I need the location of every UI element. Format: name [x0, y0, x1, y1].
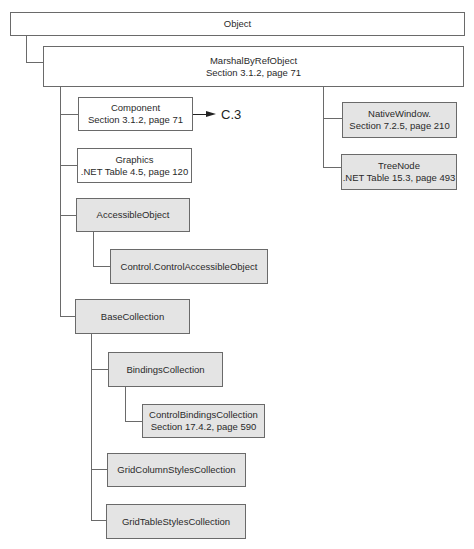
- node-component-ref: Section 3.1.2, page 71: [88, 114, 183, 126]
- connector-to-gridcolumn: [91, 469, 107, 470]
- connector-bindings-trunk: [125, 387, 126, 422]
- connector-to-graphics: [60, 165, 77, 166]
- node-gridtablestylescollection[interactable]: GridTableStylesCollection: [106, 504, 246, 539]
- node-controlaccessible-name: Control.ControlAccessibleObject: [121, 261, 258, 273]
- node-graphics[interactable]: Graphics .NET Table 4.5, page 120: [77, 148, 192, 183]
- connector-object-marshal-h: [26, 62, 43, 63]
- connector-to-bindings: [91, 369, 108, 370]
- node-graphics-ref: .NET Table 4.5, page 120: [81, 166, 188, 178]
- connector-to-basecollection: [60, 316, 75, 317]
- connector-basecollection-trunk: [91, 334, 92, 521]
- node-controlbindings-ref: Section 17.4.2, page 590: [151, 421, 257, 433]
- connector-accessible-trunk: [93, 232, 94, 267]
- node-bindings-name: BindingsCollection: [126, 364, 204, 376]
- arrow-right-icon: [206, 111, 216, 117]
- node-nativewindow-name: NativeWindow.: [368, 108, 431, 120]
- connector-to-component: [60, 114, 78, 115]
- node-controlbindings-name: ControlBindingsCollection: [149, 409, 258, 421]
- node-treenode-name: TreeNode: [378, 160, 420, 172]
- node-gridcolumnstylescollection[interactable]: GridColumnStylesCollection: [107, 453, 246, 487]
- node-marshal-name: MarshalByRefObject: [210, 55, 297, 67]
- node-graphics-name: Graphics: [115, 154, 153, 166]
- connector-marshal-trunk-left: [60, 87, 61, 317]
- class-hierarchy-diagram: C.3 Object MarshalByRefObject Section 3.…: [0, 0, 474, 549]
- node-object[interactable]: Object: [10, 12, 465, 36]
- node-nativewindow-ref: Section 7.2.5, page 210: [349, 120, 449, 132]
- connector-marshal-trunk-right: [323, 87, 324, 168]
- node-nativewindow[interactable]: NativeWindow. Section 7.2.5, page 210: [342, 102, 457, 138]
- node-object-name: Object: [224, 18, 251, 30]
- node-controlaccessibleobject[interactable]: Control.ControlAccessibleObject: [110, 249, 268, 284]
- connector-to-controlbindings: [125, 421, 142, 422]
- continuation-label: C.3: [221, 108, 241, 122]
- connector-to-gridtable: [91, 520, 106, 521]
- node-controlbindingscollection[interactable]: ControlBindingsCollection Section 17.4.2…: [142, 404, 265, 438]
- node-gridtable-name: GridTableStylesCollection: [122, 516, 230, 528]
- continuation-arrow-line: [193, 114, 207, 115]
- node-accessibleobject[interactable]: AccessibleObject: [76, 198, 190, 232]
- node-accessible-name: AccessibleObject: [97, 209, 170, 221]
- node-basecollection[interactable]: BaseCollection: [75, 299, 190, 334]
- connector-to-accessible: [60, 215, 76, 216]
- node-treenode[interactable]: TreeNode .NET Table 15.3, page 493: [341, 154, 457, 190]
- connector-to-controlaccessible: [93, 266, 110, 267]
- node-marshalbyrefobject[interactable]: MarshalByRefObject Section 3.1.2, page 7…: [43, 46, 464, 87]
- node-treenode-ref: .NET Table 15.3, page 493: [343, 172, 456, 184]
- connector-object-marshal: [26, 36, 27, 63]
- node-component-name: Component: [111, 102, 160, 114]
- node-gridcolumn-name: GridColumnStylesCollection: [117, 464, 235, 476]
- node-marshal-ref: Section 3.1.2, page 71: [206, 67, 301, 79]
- node-bindingscollection[interactable]: BindingsCollection: [108, 352, 223, 387]
- connector-to-nativewindow: [323, 118, 342, 119]
- connector-to-treenode: [323, 167, 341, 168]
- node-basecollection-name: BaseCollection: [101, 311, 164, 323]
- node-component[interactable]: Component Section 3.1.2, page 71: [78, 97, 193, 131]
